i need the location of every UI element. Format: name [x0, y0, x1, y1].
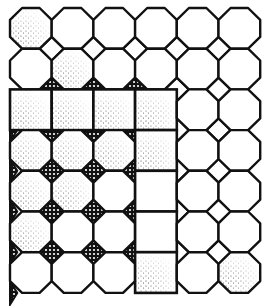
octagon-tile [177, 8, 219, 49]
octagon-tile [177, 130, 219, 171]
octagon-tile [52, 252, 94, 293]
stipple-shading [10, 89, 52, 130]
stipple-shading [10, 171, 52, 212]
octagon-tile [219, 49, 261, 90]
stipple-shading [219, 252, 261, 293]
stipple-shading [135, 89, 177, 130]
octagon-tile [93, 252, 135, 293]
stipple-shading [52, 49, 94, 90]
octagon-tile [177, 171, 219, 212]
stipple-shading [52, 89, 94, 130]
square-tile [135, 171, 177, 212]
octagon-tile [219, 89, 261, 130]
stipple-shading [10, 8, 52, 49]
stipple-shading [10, 130, 52, 171]
stipple-shading [52, 171, 94, 212]
tile-pattern-svg [0, 0, 268, 306]
octagon-tile [93, 49, 135, 90]
stipple-shading [93, 89, 135, 130]
octagon-tile [93, 212, 135, 253]
octagon-tile [10, 49, 52, 90]
stipple-shading [93, 130, 135, 171]
octagon-tile [93, 8, 135, 49]
octagon-tile [177, 212, 219, 253]
tile-pattern-illustration [0, 0, 268, 306]
octagon-tile [177, 252, 219, 293]
octagon-tile [219, 130, 261, 171]
octagon-tile [177, 49, 219, 90]
stipple-shading [135, 130, 177, 171]
octagon-tile [177, 89, 219, 130]
octagon-tile [10, 252, 52, 293]
octagon-tile [219, 8, 261, 49]
square-tile [135, 212, 177, 253]
octagon-tile [93, 171, 135, 212]
octagon-tile [52, 8, 94, 49]
octagon-tile [219, 171, 261, 212]
stipple-shading [135, 252, 177, 293]
octagon-tile [52, 212, 94, 253]
octagon-tile [135, 8, 177, 49]
octagon-tile [135, 49, 177, 90]
octagon-tile [219, 212, 261, 253]
stipple-shading [10, 212, 52, 253]
stipple-shading [52, 130, 94, 171]
